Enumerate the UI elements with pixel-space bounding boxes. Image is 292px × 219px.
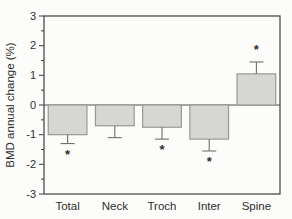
significance-marker-troch: *	[159, 142, 165, 157]
y-tick-label: 0	[30, 99, 36, 111]
y-tick-label: -1	[26, 128, 36, 140]
significance-marker-spine: *	[254, 42, 260, 57]
significance-marker-inter: *	[207, 154, 213, 169]
x-tick-label-spine: Spine	[242, 200, 271, 212]
y-tick-label: 3	[30, 10, 36, 22]
x-tick-label-neck: Neck	[102, 200, 128, 212]
y-tick-label: -2	[26, 158, 36, 170]
bar-chart: BMD annual change (%) -3-2-10123*TotalNe…	[0, 0, 292, 219]
bar-inter	[190, 105, 229, 139]
x-tick-label-inter: Inter	[198, 200, 221, 212]
y-axis-title: BMD annual change (%)	[4, 42, 16, 167]
bar-spine	[237, 74, 276, 105]
y-tick-label: 1	[30, 69, 36, 81]
y-tick-label: -3	[26, 188, 36, 200]
x-tick-label-total: Total	[55, 200, 79, 212]
bar-total	[48, 105, 87, 135]
y-tick-label: 2	[30, 39, 36, 51]
bar-troch	[143, 105, 182, 127]
bmd-bar-chart-figure: BMD annual change (%) -3-2-10123*TotalNe…	[0, 0, 292, 219]
bar-neck	[95, 105, 134, 126]
plot-area: -3-2-10123*TotalNeck*Troch*Inter*Spine	[26, 10, 280, 213]
x-tick-label-troch: Troch	[148, 200, 177, 212]
significance-marker-total: *	[65, 147, 71, 162]
